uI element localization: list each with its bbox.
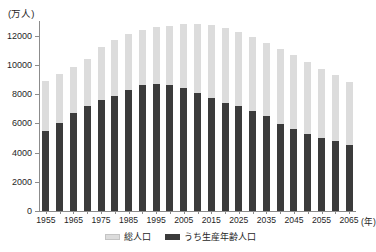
- bar-working-age-population: [84, 106, 91, 211]
- y-tick-mark: [35, 211, 39, 212]
- x-tick-mark: [349, 211, 350, 214]
- x-tick-mark: [73, 211, 74, 214]
- bar-working-age-population: [166, 85, 173, 211]
- x-tick-mark: [211, 211, 212, 214]
- x-tick-label: 2065: [340, 215, 359, 225]
- bar-working-age-population: [332, 141, 339, 211]
- x-tick-label: 1975: [91, 215, 110, 225]
- x-axis-unit-label: (年): [361, 215, 376, 227]
- bar-working-age-population: [42, 131, 49, 211]
- x-tick-mark: [322, 211, 323, 214]
- plot-area: 020004000600080001000012000 195519651975…: [39, 21, 356, 211]
- x-tick-mark: [156, 211, 157, 214]
- bar-working-age-population: [235, 106, 242, 211]
- bar-series-container: [39, 21, 356, 211]
- x-tick-mark: [142, 211, 143, 214]
- x-tick-mark: [239, 211, 240, 214]
- x-tick-mark: [170, 211, 171, 214]
- x-tick-label: 1965: [64, 215, 83, 225]
- bar-working-age-population: [304, 134, 311, 211]
- x-tick-mark: [60, 211, 61, 214]
- x-tick-mark: [253, 211, 254, 214]
- x-tick-label: 1995: [147, 215, 166, 225]
- x-tick-mark: [101, 211, 102, 214]
- y-tick-label: 6000: [12, 118, 32, 128]
- bar-working-age-population: [263, 116, 270, 211]
- legend-item-total-population: 総人口: [105, 230, 151, 243]
- bar-working-age-population: [249, 111, 256, 211]
- bar-working-age-population: [194, 93, 201, 211]
- y-tick-label: 0: [27, 206, 32, 216]
- x-tick-mark: [184, 211, 185, 214]
- legend-label-total-population: 総人口: [124, 230, 151, 243]
- x-tick-label: 1985: [119, 215, 138, 225]
- legend-label-working-age-population: うち生産年齢人口: [184, 230, 256, 243]
- x-tick-mark: [225, 211, 226, 214]
- y-axis-unit-label: (万人): [8, 6, 34, 20]
- bar-working-age-population: [98, 100, 105, 211]
- x-tick-mark: [294, 211, 295, 214]
- x-tick-mark: [129, 211, 130, 214]
- x-tick-mark: [87, 211, 88, 214]
- bar-working-age-population: [277, 124, 284, 211]
- x-tick-mark: [280, 211, 281, 214]
- bar-working-age-population: [125, 90, 132, 211]
- bar-working-age-population: [153, 84, 160, 211]
- x-tick-mark: [308, 211, 309, 214]
- x-tick-label: 2055: [312, 215, 331, 225]
- bar-working-age-population: [56, 123, 63, 211]
- total-population-swatch-icon: [105, 234, 120, 240]
- x-tick-mark: [46, 211, 47, 214]
- bar-working-age-population: [346, 145, 353, 211]
- y-tick-label: 8000: [12, 89, 32, 99]
- legend-item-working-age-population: うち生産年齢人口: [165, 230, 256, 243]
- bar-working-age-population: [222, 103, 229, 211]
- bar-working-age-population: [111, 96, 118, 211]
- bar-working-age-population: [290, 129, 297, 211]
- x-tick-label: 2025: [229, 215, 248, 225]
- bar-working-age-population: [139, 85, 146, 211]
- chart-legend: 総人口 うち生産年齢人口: [0, 230, 360, 243]
- working-age-population-swatch-icon: [165, 234, 180, 240]
- y-tick-label: 4000: [12, 148, 32, 158]
- bar-working-age-population: [318, 138, 325, 211]
- x-tick-mark: [115, 211, 116, 214]
- x-tick-mark: [266, 211, 267, 214]
- x-tick-label: 2045: [284, 215, 303, 225]
- x-tick-mark: [198, 211, 199, 214]
- x-tick-label: 2035: [257, 215, 276, 225]
- y-tick-label: 12000: [7, 31, 32, 41]
- y-tick-label: 10000: [7, 60, 32, 70]
- x-tick-label: 2005: [174, 215, 193, 225]
- bar-working-age-population: [208, 98, 215, 211]
- x-tick-label: 2015: [202, 215, 221, 225]
- x-tick-mark: [335, 211, 336, 214]
- y-tick-label: 2000: [12, 177, 32, 187]
- x-tick-label: 1955: [36, 215, 55, 225]
- bar-working-age-population: [180, 88, 187, 211]
- bar-working-age-population: [70, 113, 77, 211]
